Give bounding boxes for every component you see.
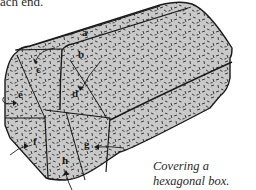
label-e: e <box>18 88 23 100</box>
label-b: b <box>78 48 84 60</box>
label-g: g <box>84 138 90 150</box>
label-d: d <box>72 87 78 99</box>
figure-caption: Covering a hexagonal box. <box>153 159 229 189</box>
caption-line-2: hexagonal box. <box>153 174 229 189</box>
label-c: c <box>36 63 41 75</box>
caption-line-1: Covering a <box>153 159 229 174</box>
label-a: a <box>82 26 88 38</box>
label-h: h <box>62 154 68 166</box>
label-f: f <box>33 135 37 147</box>
